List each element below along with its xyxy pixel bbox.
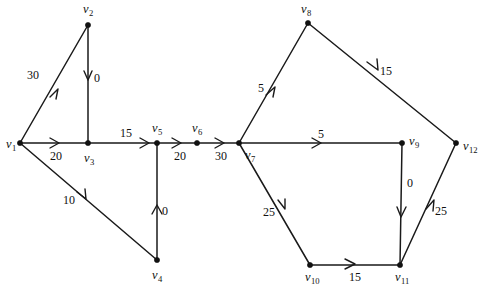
edge-v9-v11 <box>400 143 402 265</box>
weight-label-e-v7-v9: 5 <box>318 128 324 140</box>
weight-label-e-v8-v12: 15 <box>380 65 392 77</box>
graph-figure: v1v2v3v4v5v6v7v8v9v10v11v12 300201001520… <box>0 0 487 287</box>
vertex-label-v9: v9 <box>409 135 419 148</box>
vertex-label-v3: v3 <box>84 152 94 165</box>
vertex-label-v6: v6 <box>192 122 202 135</box>
arrowhead-v1-v2 <box>50 89 58 99</box>
vertex-dot-v2[interactable] <box>85 22 90 27</box>
vertex-label-v10: v10 <box>305 271 319 284</box>
weight-label-e-v1-v2: 30 <box>27 69 39 81</box>
weight-label-e-v10-v11: 15 <box>349 271 361 283</box>
vertex-label-v5: v5 <box>152 122 162 135</box>
edge-v8-v12 <box>308 23 456 143</box>
vertex-dot-v5[interactable] <box>154 140 159 145</box>
edge-arrowheads <box>50 59 434 269</box>
vertex-dot-v4[interactable] <box>154 257 159 262</box>
arrowhead-v8-v12 <box>367 59 378 70</box>
arrowhead-v10-v11 <box>345 259 355 269</box>
edge-v1-v2 <box>20 25 88 143</box>
weight-label-e-v7-v10: 25 <box>263 206 275 218</box>
vertex-label-v7: v7 <box>245 149 255 162</box>
weight-label-e-v3-v5: 15 <box>120 127 132 139</box>
vertex-dot-v12[interactable] <box>453 140 458 145</box>
vertex-dot-v7[interactable] <box>236 140 241 145</box>
vertex-label-v1: v1 <box>6 138 16 151</box>
edge-v7-v8 <box>239 23 308 143</box>
weight-label-e-v2-v3: 0 <box>94 72 100 84</box>
vertex-label-v12: v12 <box>463 140 477 153</box>
vertex-dot-v6[interactable] <box>194 140 199 145</box>
weight-label-e-v1-v3: 20 <box>50 150 62 162</box>
vertex-dots <box>17 20 458 267</box>
weight-label-e-v11-v12: 25 <box>435 205 447 217</box>
arrowhead-v7-v10 <box>278 199 285 209</box>
weight-label-e-v9-v11: 0 <box>407 177 413 189</box>
arrowhead-v1-v4 <box>77 189 86 199</box>
vertex-label-v8: v8 <box>301 3 311 16</box>
vertex-label-v2: v2 <box>83 3 93 16</box>
vertex-dot-v9[interactable] <box>399 140 404 145</box>
weight-label-e-v5-v6: 20 <box>174 150 186 162</box>
vertex-label-v4: v4 <box>152 269 162 282</box>
weight-label-e-v4-v5: 0 <box>162 205 168 217</box>
vertex-dot-v10[interactable] <box>307 262 312 267</box>
vertex-dot-v8[interactable] <box>305 20 310 25</box>
vertex-label-v11: v11 <box>395 271 409 284</box>
weight-label-e-v6-v7: 30 <box>215 150 227 162</box>
vertex-dot-v11[interactable] <box>397 262 402 267</box>
weight-label-e-v7-v8: 5 <box>258 82 264 94</box>
vertex-dot-v1[interactable] <box>17 140 22 145</box>
vertex-dot-v3[interactable] <box>85 140 90 145</box>
weight-label-e-v1-v4: 10 <box>63 194 75 206</box>
edge-v11-v12 <box>400 143 456 265</box>
